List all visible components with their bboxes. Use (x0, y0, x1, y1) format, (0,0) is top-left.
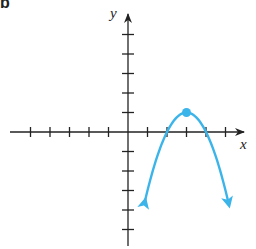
x-axis-label: x (239, 136, 247, 152)
vertex-point (182, 108, 191, 117)
parabola-graph: x y (0, 0, 256, 249)
parabola-curve (145, 113, 229, 203)
y-axis-label: y (108, 5, 117, 21)
